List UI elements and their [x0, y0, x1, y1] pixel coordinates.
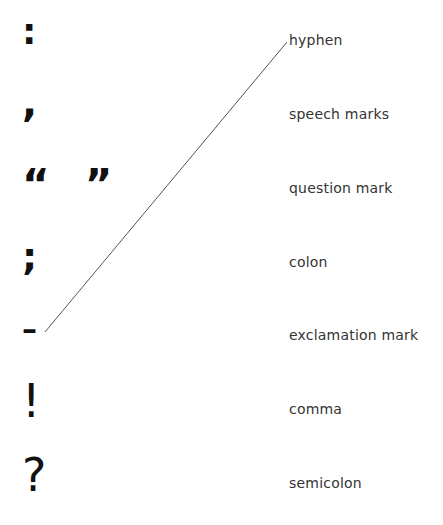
label-speech-marks[interactable]: speech marks: [289, 106, 389, 122]
label-question-mark[interactable]: question mark: [289, 180, 393, 196]
label-hyphen[interactable]: hyphen: [289, 32, 343, 48]
label-semicolon[interactable]: semicolon: [289, 475, 362, 491]
connection-line-hyphen: [45, 42, 287, 332]
connection-lines: [0, 0, 443, 525]
label-colon[interactable]: colon: [289, 254, 328, 270]
label-comma[interactable]: comma: [289, 401, 342, 417]
label-exclamation-mark[interactable]: exclamation mark: [289, 327, 418, 343]
